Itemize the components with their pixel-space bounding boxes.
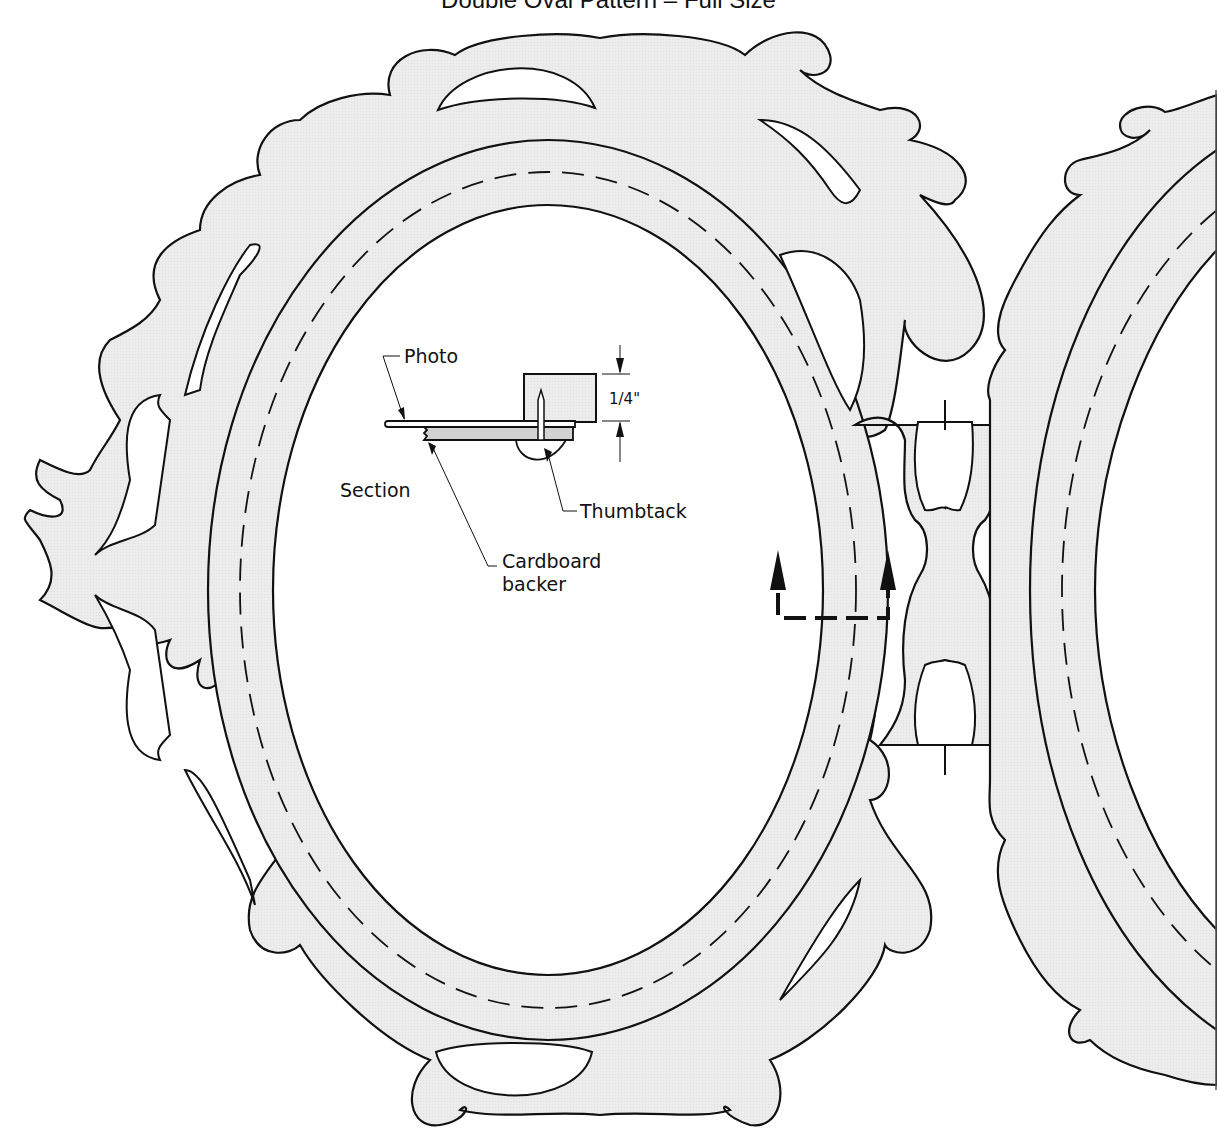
frame-block bbox=[524, 374, 596, 422]
photo-label: Photo bbox=[404, 345, 458, 367]
thumbtack-label: Thumbtack bbox=[579, 500, 687, 522]
right-oval-frame bbox=[988, 90, 1217, 1090]
cardboard-label-line1: Cardboard bbox=[502, 550, 601, 572]
cardboard-backer bbox=[424, 427, 573, 440]
pattern-drawing: 1/4" Photo Section Thumbtack Cardboard b… bbox=[0, 0, 1217, 1138]
dimension-label: 1/4" bbox=[609, 390, 640, 408]
connector-upper-cutout bbox=[915, 422, 973, 510]
connector-lower-cutout bbox=[915, 660, 975, 745]
cardboard-label-line2: backer bbox=[502, 573, 566, 595]
section-heading: Section bbox=[340, 479, 411, 501]
thumbtack-pin bbox=[538, 390, 544, 440]
